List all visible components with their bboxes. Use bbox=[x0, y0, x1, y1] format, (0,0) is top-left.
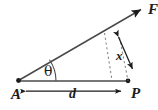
point-p-dot bbox=[126, 78, 131, 83]
label-force-vector: F bbox=[148, 2, 158, 17]
dashed-guide-left bbox=[105, 33, 113, 81]
figure-container: A P F d x θ bbox=[0, 0, 158, 110]
label-point-p: P bbox=[131, 86, 140, 101]
label-distance-d: d bbox=[69, 87, 76, 101]
point-a-dot bbox=[16, 78, 21, 83]
label-angle-theta: θ bbox=[44, 64, 52, 78]
label-distance-x: x bbox=[116, 49, 123, 62]
label-point-a: A bbox=[11, 87, 21, 102]
